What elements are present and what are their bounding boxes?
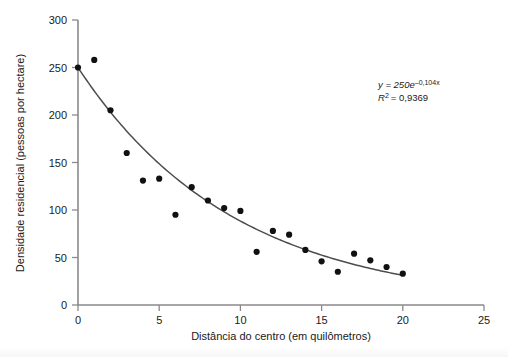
equation-annotation: y = 250e–0,104x R2= 0,9369 [377,79,440,104]
x-tick-label: 0 [75,314,81,326]
y-tick-label: 200 [49,109,67,121]
r-squared-line: R2= 0,9369 [378,92,428,104]
x-tick-label: 5 [156,314,162,326]
data-point [107,107,113,113]
data-point [286,232,292,238]
x-tick-label: 25 [478,314,490,326]
data-point [140,177,146,183]
data-point [270,228,276,234]
chart-container: 050100150200250300 0510152025 Distância … [0,0,508,357]
data-point [335,269,341,275]
equation-exponent-term: –0,104x [415,79,440,86]
r-squared-value: = 0,9369 [391,92,428,103]
page-edge-shading [0,347,508,357]
data-point [221,205,227,211]
r-squared-superscript: 2 [385,92,389,99]
equation-line: y = 250e–0,104x [377,79,440,91]
equation-y-term: y = 250 [377,79,410,90]
data-point [237,208,243,214]
y-tick-label: 100 [49,204,67,216]
y-tick-label: 300 [49,14,67,26]
data-point [172,212,178,218]
y-tick-label: 0 [61,299,67,311]
exponential-fit-curve [78,68,403,276]
y-tick-label: 250 [49,62,67,74]
data-point [351,251,357,257]
data-point [189,184,195,190]
y-tick-label: 50 [55,252,67,264]
data-point-group [75,57,406,277]
data-point [75,64,81,70]
y-axis-title: Densidade residencial (pessoas por hecta… [14,54,26,272]
data-point [400,271,406,277]
data-point [383,264,389,270]
x-tick-label: 20 [397,314,409,326]
x-tick-label: 15 [315,314,327,326]
data-point [205,197,211,203]
data-point [156,176,162,182]
y-axis-ticks: 050100150200250300 [49,14,78,311]
data-point [302,247,308,253]
residential-density-scatter-chart: 050100150200250300 0510152025 Distância … [0,0,508,357]
data-point [91,57,97,63]
y-tick-label: 150 [49,157,67,169]
x-axis-ticks: 0510152025 [75,305,490,326]
data-point [254,249,260,255]
data-point [367,257,373,263]
x-tick-label: 10 [234,314,246,326]
data-point [124,150,130,156]
x-axis-title: Distância do centro (em quilômetros) [191,330,371,342]
data-point [319,258,325,264]
